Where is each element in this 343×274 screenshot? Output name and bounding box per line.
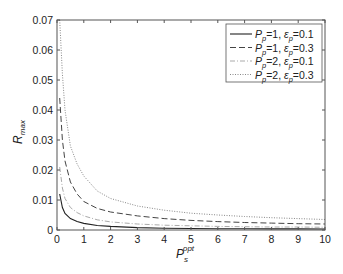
y-tick-label: 0.01 [33, 194, 54, 206]
x-tick-label: 10 [319, 233, 331, 245]
x-tick-label: 2 [108, 233, 114, 245]
y-tick-label: 0.06 [33, 44, 54, 56]
legend: Pp=1, εp=0.1Pp=1, εp=0.3Pp=2, εp=0.1Pp=2… [226, 24, 322, 84]
x-tick-label: 6 [215, 233, 221, 245]
y-tick-label: 0.02 [33, 164, 54, 176]
x-tick-label: 7 [242, 233, 248, 245]
y-tick-label: 0 [47, 224, 53, 236]
y-tick-label: 0.04 [33, 104, 54, 116]
x-tick-label: 4 [161, 233, 167, 245]
line-chart: 012345678910 00.010.020.030.040.050.060.… [0, 0, 343, 274]
x-tick-label: 1 [81, 233, 87, 245]
y-tick-label: 0.07 [33, 14, 54, 26]
x-tick-label: 8 [268, 233, 274, 245]
x-tick-label: 9 [295, 233, 301, 245]
y-tick-label: 0.03 [33, 134, 54, 146]
y-tick-label: 0.05 [33, 74, 54, 86]
x-tick-label: 0 [54, 233, 60, 245]
x-tick-label: 3 [134, 233, 140, 245]
